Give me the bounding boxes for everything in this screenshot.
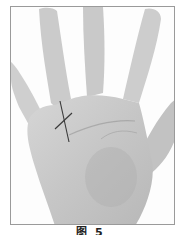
middle-finger (83, 7, 105, 97)
index-finger (123, 8, 161, 103)
ring-finger (39, 8, 71, 111)
palm-illustration (11, 7, 175, 225)
figure-caption: 图 5 (0, 227, 181, 235)
palm-photo (10, 6, 175, 225)
